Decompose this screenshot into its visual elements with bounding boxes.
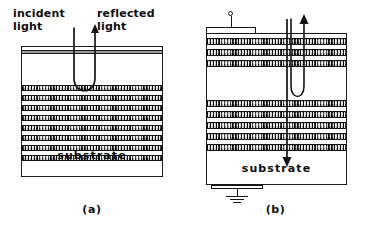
reflected-light-label: reflected light [97,7,155,34]
film-layer [22,125,162,131]
top-surface-film-a [22,50,162,54]
panel-b-caption: (b) [184,203,367,216]
film-layer [22,85,162,91]
film-layer [22,135,162,141]
lower-mirror-stack-b [207,100,346,158]
panel-a: incident light reflected light substrate… [0,0,184,232]
film-layer [207,49,346,56]
device-stack-a: substrate [21,46,163,177]
film-layer [207,111,346,118]
film-layer [207,38,346,45]
film-layer [207,144,346,151]
film-layer [22,115,162,121]
film-layer [22,95,162,101]
panel-a-caption: (a) [0,203,184,216]
cavity-spacer-b [207,78,346,100]
film-layer [207,100,346,107]
substrate-label-b: substrate [207,162,346,175]
ground-bar-wide [226,196,248,197]
device-stack-b: substrate [206,33,347,185]
upper-mirror-stack-b [207,38,346,74]
incident-light-label: incident light [13,7,65,34]
ground-lead-wire [237,188,238,196]
substrate-label-a: substrate [22,149,162,162]
film-layer [22,105,162,111]
film-layer [207,122,346,129]
panel-b: substrate (b) [184,0,367,232]
figure-root: incident light reflected light substrate… [0,0,367,232]
film-layer [207,60,346,67]
film-layer [207,133,346,140]
ground-bar-mid [230,199,244,200]
